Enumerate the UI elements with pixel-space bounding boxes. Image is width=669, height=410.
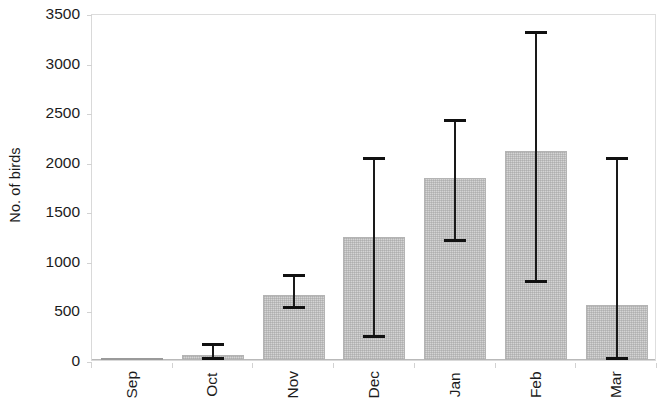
y-axis-tick-mark xyxy=(87,263,92,264)
error-bar-cap-lower xyxy=(444,239,466,242)
y-axis-tick-label: 1500 xyxy=(46,205,80,221)
x-axis-tick-label: Sep xyxy=(86,363,176,409)
error-bar-stem xyxy=(373,159,375,336)
x-axis-tick-label: Jan xyxy=(409,363,499,409)
x-axis-tick-label-text: Sep xyxy=(124,371,140,399)
bar-group xyxy=(576,15,657,360)
y-axis-tick-mark xyxy=(87,15,92,16)
x-axis-tick-mark xyxy=(91,363,92,368)
plot-area xyxy=(91,14,656,361)
x-axis-tick-label: Mar xyxy=(571,363,661,409)
x-axis-tick-label-text: Jan xyxy=(446,372,462,397)
error-bar-cap-lower xyxy=(525,280,547,283)
y-axis-tick-label: 0 xyxy=(71,353,80,369)
error-bar-stem xyxy=(535,33,537,282)
y-axis-title-text: No. of birds xyxy=(7,147,23,222)
error-bar-cap-upper xyxy=(202,343,224,346)
bar xyxy=(101,358,163,360)
x-axis-tick-mark xyxy=(172,363,173,368)
bird-count-bar-chart: No. of birds 050010001500200025003000350… xyxy=(0,0,669,410)
error-bar-cap-lower xyxy=(363,335,385,338)
bar-group xyxy=(415,15,496,360)
error-bar-stem xyxy=(454,121,456,241)
y-axis-tick-labels: 0500100015002000250030003500 xyxy=(28,0,86,370)
x-axis-tick-mark xyxy=(252,363,253,368)
y-axis-tick-label: 2500 xyxy=(46,105,80,121)
y-axis-tick-label: 3000 xyxy=(46,56,80,72)
y-axis-tick-mark xyxy=(87,114,92,115)
y-axis-tick-label: 3500 xyxy=(46,6,80,22)
y-axis-tick-label: 500 xyxy=(54,304,80,320)
bar-group xyxy=(173,15,254,360)
error-bar-cap-lower xyxy=(283,306,305,309)
x-axis-tick-label-text: Oct xyxy=(204,373,220,397)
x-axis-tick-label: Nov xyxy=(248,363,338,409)
error-bar-cap-lower xyxy=(606,357,628,360)
x-axis-tick-mark xyxy=(333,363,334,368)
error-bar-cap-lower xyxy=(202,357,224,360)
x-axis-tick-label: Oct xyxy=(167,363,257,409)
bar-group xyxy=(496,15,577,360)
y-axis-tick-mark xyxy=(87,213,92,214)
x-axis-tick-label-text: Nov xyxy=(285,371,301,399)
error-bar-cap-upper xyxy=(525,31,547,34)
x-axis-tick-label-text: Mar xyxy=(608,371,624,398)
bar-group xyxy=(92,15,173,360)
bar-group xyxy=(253,15,334,360)
x-axis-tick-mark xyxy=(495,363,496,368)
error-bar-cap-upper xyxy=(444,119,466,122)
x-axis-tick-label: Dec xyxy=(329,363,419,409)
bar-group xyxy=(334,15,415,360)
y-axis-tick-mark xyxy=(87,164,92,165)
x-axis-tick-label: Feb xyxy=(490,363,580,409)
x-axis-tick-mark xyxy=(575,363,576,368)
error-bar-stem xyxy=(616,159,618,359)
y-axis-title: No. of birds xyxy=(0,0,30,370)
y-axis-tick-label: 2000 xyxy=(46,155,80,171)
y-axis-tick-mark xyxy=(87,65,92,66)
x-axis-tick-labels: SepOctNovDecJanFebMar xyxy=(91,363,656,410)
x-axis-tick-mark xyxy=(414,363,415,368)
x-axis-tick-label-text: Feb xyxy=(527,371,543,398)
x-axis-tick-mark xyxy=(656,363,657,368)
y-axis-tick-mark xyxy=(87,312,92,313)
bars-layer xyxy=(92,15,655,360)
y-axis-tick-label: 1000 xyxy=(46,254,80,270)
x-axis-tick-label-text: Dec xyxy=(366,371,382,399)
error-bar-stem xyxy=(293,276,295,308)
error-bar-cap-upper xyxy=(283,274,305,277)
error-bar-cap-upper xyxy=(606,157,628,160)
error-bar-cap-upper xyxy=(363,157,385,160)
